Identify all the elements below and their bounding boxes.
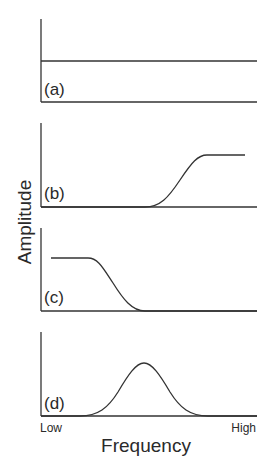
panel-d-label: (d)	[44, 394, 65, 413]
x-tick-low: Low	[40, 421, 62, 435]
panel-d-curve	[41, 363, 257, 416]
panel-b-label: (b)	[44, 184, 65, 203]
panel-b-curve	[41, 155, 245, 207]
panel-a-label: (a)	[44, 80, 65, 99]
panel-c-curve	[51, 258, 257, 311]
x-tick-high: High	[231, 421, 256, 435]
y-axis-title: Amplitude	[14, 180, 35, 265]
panel-c-label: (c)	[44, 288, 64, 307]
filter-response-chart: (a) (b) (c) (d) Low High Frequency Ampli…	[0, 0, 272, 468]
panel-a	[41, 19, 257, 102]
panel-d	[41, 332, 257, 416]
panel-b	[41, 123, 257, 207]
x-axis-title: Frequency	[101, 435, 191, 456]
panel-c	[41, 228, 257, 311]
